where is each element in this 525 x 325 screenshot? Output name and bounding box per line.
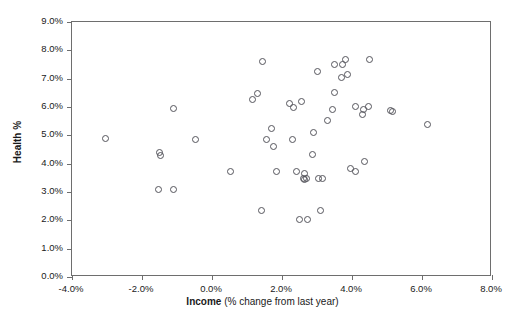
data-point: [192, 136, 199, 143]
data-point: [331, 89, 338, 96]
y-tick-label: 1.0%: [5, 243, 63, 253]
data-point: [259, 58, 266, 65]
x-axis-title-strong: Income: [186, 296, 221, 307]
x-tick: [142, 275, 143, 280]
data-point: [268, 125, 275, 132]
data-point: [270, 143, 277, 150]
y-tick-label: 0.0%: [5, 271, 63, 281]
y-tick: [67, 22, 72, 23]
y-tick-label: 7.0%: [5, 73, 63, 83]
x-tick: [72, 275, 73, 280]
x-tick-label: 8.0%: [461, 284, 521, 294]
x-tick-label: 2.0%: [251, 284, 311, 294]
data-point: [298, 98, 305, 105]
data-point: [258, 207, 265, 214]
y-tick-label: 2.0%: [5, 214, 63, 224]
data-point: [424, 121, 431, 128]
x-axis-title-rest: (% change from last year): [221, 296, 338, 307]
data-point: [293, 168, 300, 175]
data-point: [296, 216, 303, 223]
data-point: [170, 186, 177, 193]
x-tick: [282, 275, 283, 280]
data-point: [329, 106, 336, 113]
y-tick: [67, 50, 72, 51]
data-point: [331, 61, 338, 68]
data-point: [344, 71, 351, 78]
x-tick: [212, 275, 213, 280]
data-point: [263, 136, 270, 143]
data-point: [254, 90, 261, 97]
data-point: [303, 175, 310, 182]
y-tick: [67, 79, 72, 80]
data-point: [273, 168, 280, 175]
data-point: [157, 152, 164, 159]
y-axis-title: Health %: [12, 102, 24, 182]
data-point: [319, 175, 326, 182]
x-tick-label: -4.0%: [41, 284, 101, 294]
y-tick-label: 5.0%: [5, 129, 63, 139]
data-point: [352, 103, 359, 110]
data-point: [309, 151, 316, 158]
data-point: [102, 135, 109, 142]
data-point: [352, 168, 359, 175]
y-tick-label: 4.0%: [5, 158, 63, 168]
x-tick-label: -2.0%: [111, 284, 171, 294]
y-tick: [67, 164, 72, 165]
scatter-chart: Health % 0.0%1.0%2.0%3.0%4.0%5.0%6.0%7.0…: [0, 0, 525, 325]
x-tick-label: 0.0%: [181, 284, 241, 294]
data-point: [342, 56, 349, 63]
data-point: [365, 103, 372, 110]
x-axis-title: Income (% change from last year): [0, 296, 525, 308]
x-tick: [492, 275, 493, 280]
y-tick: [67, 107, 72, 108]
y-tick: [67, 135, 72, 136]
y-tick-label: 3.0%: [5, 186, 63, 196]
data-point: [227, 168, 234, 175]
x-tick-label: 4.0%: [321, 284, 381, 294]
data-point: [290, 104, 297, 111]
y-tick: [67, 249, 72, 250]
y-tick-label: 8.0%: [5, 44, 63, 54]
data-point: [249, 96, 256, 103]
x-tick-label: 6.0%: [391, 284, 451, 294]
y-tick-label: 6.0%: [5, 101, 63, 111]
data-point: [314, 68, 321, 75]
data-point: [170, 105, 177, 112]
y-tick: [67, 220, 72, 221]
x-tick: [422, 275, 423, 280]
y-tick-label: 9.0%: [5, 16, 63, 26]
y-tick: [67, 192, 72, 193]
data-point: [324, 117, 331, 124]
data-point: [389, 108, 396, 115]
data-point: [310, 129, 317, 136]
x-tick: [352, 275, 353, 280]
data-point: [289, 136, 296, 143]
data-point: [304, 216, 311, 223]
data-point: [366, 56, 373, 63]
data-point: [317, 207, 324, 214]
plot-area: [71, 21, 491, 276]
data-point: [361, 158, 368, 165]
data-point: [155, 186, 162, 193]
